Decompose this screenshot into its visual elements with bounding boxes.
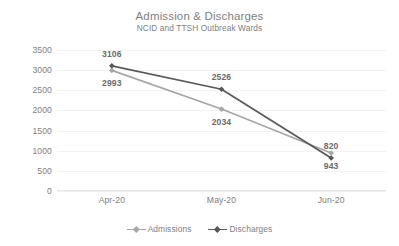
chart-legend: AdmissionsDischarges: [0, 224, 399, 234]
data-point-marker: [219, 106, 225, 112]
data-point-marker: [109, 63, 115, 69]
chart-title-block: Admission & Discharges NCID and TTSH Out…: [0, 9, 399, 34]
legend-label: Admissions: [148, 224, 192, 234]
gridline: [57, 191, 386, 192]
data-label: 820: [324, 141, 339, 151]
y-axis-tick-label: 1000: [0, 146, 52, 156]
x-axis-tick-label: Apr-20: [99, 195, 125, 205]
y-axis-tick-label: 2000: [0, 105, 52, 115]
data-label: 2993: [102, 78, 122, 88]
y-axis-tick-label: 3000: [0, 65, 52, 75]
y-axis-tick-label: 500: [0, 166, 52, 176]
y-axis-tick-label: 3500: [0, 45, 52, 55]
line-chart: Admission & Discharges NCID and TTSH Out…: [0, 0, 399, 246]
y-axis-tick-label: 2500: [0, 85, 52, 95]
legend-item-discharges[interactable]: Discharges: [208, 224, 272, 234]
data-label: 2034: [212, 117, 232, 127]
data-point-marker: [328, 150, 334, 156]
legend-marker-icon: [133, 226, 139, 232]
data-label: 943: [324, 161, 339, 171]
x-axis-tick-label: Jun-20: [318, 195, 345, 205]
x-axis-tick-label: May-20: [207, 195, 236, 205]
legend-swatch-icon: [208, 225, 227, 234]
y-axis-tick-label: 0: [0, 186, 52, 196]
data-label: 3106: [102, 49, 122, 59]
legend-item-admissions[interactable]: Admissions: [127, 224, 192, 234]
plot-area: 2993203494331062526820: [57, 50, 386, 191]
legend-marker-icon: [215, 226, 221, 232]
x-axis-labels: Apr-20May-20Jun-20: [57, 195, 386, 209]
chart-subtitle: NCID and TTSH Outbreak Wards: [0, 23, 399, 34]
chart-title: Admission & Discharges: [0, 9, 399, 23]
legend-label: Discharges: [229, 224, 272, 234]
y-axis-tick-label: 1500: [0, 126, 52, 136]
legend-swatch-icon: [127, 225, 146, 234]
data-label: 2526: [212, 72, 232, 82]
y-axis-labels: 0500100015002000250030003500: [0, 50, 52, 191]
